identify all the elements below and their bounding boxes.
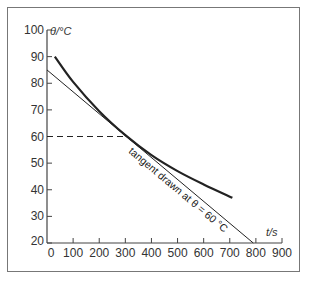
y-tick-label: 20 — [31, 234, 45, 248]
x-tick-label: 300 — [115, 246, 135, 260]
y-tick-label: 30 — [31, 209, 45, 223]
cooling-curve-chart: 2030405060708090100010020030040050060070… — [0, 0, 309, 282]
y-tick-label: 50 — [31, 156, 45, 170]
x-tick-label: 800 — [246, 246, 266, 260]
y-axis-label: θ/°C — [50, 25, 71, 37]
cooling-curve — [55, 57, 233, 198]
y-tick-label: 80 — [31, 76, 45, 90]
x-tick-label: 500 — [168, 246, 188, 260]
y-tick-label: 40 — [31, 183, 45, 197]
y-tick-label: 100 — [24, 23, 44, 37]
x-tick-label: 0 — [48, 246, 55, 260]
axes: 2030405060708090100010020030040050060070… — [24, 23, 292, 260]
y-tick-label: 90 — [31, 50, 45, 64]
x-tick-label: 400 — [141, 246, 161, 260]
tangent-line — [47, 70, 253, 243]
y-tick-label: 60 — [31, 130, 45, 144]
x-tick-label: 100 — [63, 246, 83, 260]
x-tick-label: 900 — [272, 246, 292, 260]
x-tick-label: 600 — [194, 246, 214, 260]
x-tick-label: 200 — [89, 246, 109, 260]
x-tick-label: 700 — [220, 246, 240, 260]
plot-area — [47, 57, 253, 243]
y-tick-label: 70 — [31, 103, 45, 117]
x-axis-label: t/s — [266, 226, 278, 238]
